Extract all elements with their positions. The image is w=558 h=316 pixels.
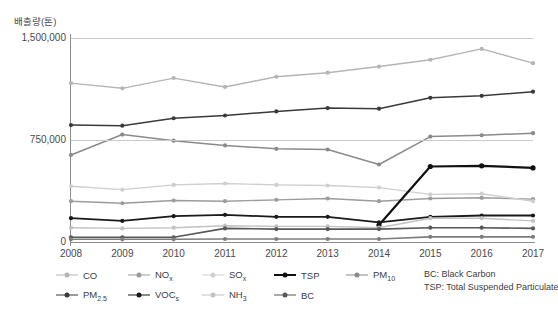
- gridline: [71, 38, 533, 39]
- data-point-CO: [274, 75, 278, 79]
- legend-item-PM2.5[interactable]: PM2.5: [56, 286, 107, 304]
- data-point-PM10: [326, 147, 330, 151]
- legend-swatch-icon: [274, 270, 296, 280]
- legend-item-NOx[interactable]: NOx: [128, 266, 173, 284]
- data-point-PM2.5: [377, 107, 381, 111]
- legend-item-BC[interactable]: BC: [274, 286, 314, 304]
- series-line-PM10: [71, 133, 533, 164]
- legend-label: SOx: [229, 269, 246, 282]
- data-point-PM2.5: [172, 116, 176, 120]
- data-point-NH3: [531, 219, 535, 223]
- legend-label: CO: [83, 270, 97, 281]
- x-tick-label: 2016: [459, 248, 505, 259]
- data-point-PM2.5: [120, 124, 124, 128]
- data-point-NOx: [326, 196, 330, 200]
- legend-swatch-icon: [128, 290, 150, 300]
- data-point-CO: [531, 61, 535, 65]
- data-point-TSP: [428, 164, 433, 169]
- data-point-SOx: [69, 184, 73, 188]
- data-point-PM2.5: [69, 123, 73, 127]
- data-point-VOCs: [326, 215, 330, 219]
- data-point-PM2.5: [326, 106, 330, 110]
- data-point-SOx: [480, 192, 484, 196]
- data-point-CO: [172, 76, 176, 80]
- data-point-NOx: [223, 199, 227, 203]
- legend: CONOxSOxTSPPM10 PM2.5VOCsNH3BC: [56, 266, 416, 310]
- data-point-VOCs: [377, 220, 381, 224]
- data-point-NH3: [120, 226, 124, 230]
- data-point-SOx: [531, 199, 535, 203]
- data-point-PM2.5: [531, 90, 535, 94]
- legend-swatch-icon: [56, 270, 78, 280]
- data-point-TSP: [530, 165, 535, 170]
- x-tick-label: 2010: [151, 248, 197, 259]
- data-point-BC-low: [428, 235, 432, 239]
- data-point-SOx: [326, 183, 330, 187]
- data-point-SOx: [377, 186, 381, 190]
- y-tick-label: 1,500,000: [22, 32, 67, 43]
- data-point-BC-low: [120, 237, 124, 241]
- legend-swatch-icon: [56, 290, 78, 300]
- legend-label: NOx: [155, 269, 173, 282]
- data-point-CO: [223, 85, 227, 89]
- data-point-NH3: [172, 226, 176, 230]
- legend-swatch-icon: [202, 290, 224, 300]
- legend-item-VOCs[interactable]: VOCs: [128, 286, 179, 304]
- legend-item-NH3[interactable]: NH3: [202, 286, 247, 304]
- gridline: [71, 140, 533, 141]
- data-point-CO: [377, 64, 381, 68]
- legend-swatch-icon: [128, 270, 150, 280]
- data-point-BC-low: [274, 237, 278, 241]
- data-point-PM10: [223, 143, 227, 147]
- data-point-VOCs: [172, 214, 176, 218]
- data-point-NOx: [172, 198, 176, 202]
- legend-item-SOx[interactable]: SOx: [202, 266, 246, 284]
- plot-area: [71, 38, 533, 242]
- legend-item-TSP[interactable]: TSP: [274, 266, 319, 284]
- data-point-NOx: [69, 199, 73, 203]
- y-axis-tick-group: 0750,0001,500,000: [0, 0, 66, 260]
- legend-item-PM10[interactable]: PM10: [346, 266, 395, 284]
- data-point-BC: [377, 227, 381, 231]
- legend-label: VOCs: [155, 289, 179, 302]
- data-point-PM10: [274, 147, 278, 151]
- data-point-BC: [274, 227, 278, 231]
- x-tick-label: 2013: [305, 248, 351, 259]
- data-point-PM2.5: [428, 96, 432, 100]
- x-tick-label: 2017: [510, 248, 556, 259]
- data-point-NH3: [428, 216, 432, 220]
- x-tick-label: 2009: [99, 248, 145, 259]
- data-point-PM10: [480, 133, 484, 137]
- data-point-VOCs: [69, 216, 73, 220]
- legend-swatch-icon: [274, 290, 296, 300]
- data-point-PM10: [377, 162, 381, 166]
- legend-item-CO[interactable]: CO: [56, 266, 97, 284]
- footnote-tsp: TSP: Total Suspended Particulate: [424, 281, 558, 294]
- series-line-NOx: [71, 198, 533, 203]
- legend-label: NH3: [229, 289, 247, 302]
- series-line-CO: [71, 49, 533, 88]
- data-point-PM10: [120, 132, 124, 136]
- legend-row-primary: CONOxSOxTSPPM10: [56, 266, 416, 284]
- data-point-NOx: [377, 199, 381, 203]
- data-point-BC-low: [531, 235, 535, 239]
- data-point-BC: [480, 226, 484, 230]
- data-point-PM10: [69, 153, 73, 157]
- data-point-BC-low: [326, 237, 330, 241]
- data-point-SOx: [172, 183, 176, 187]
- data-point-CO: [428, 58, 432, 62]
- data-point-NH3: [480, 216, 484, 220]
- legend-label: PM2.5: [83, 289, 107, 302]
- data-point-CO: [326, 71, 330, 75]
- data-point-CO: [120, 86, 124, 90]
- data-point-BC-low: [223, 237, 227, 241]
- x-tick-label: 2011: [202, 248, 248, 259]
- legend-label: TSP: [301, 270, 319, 281]
- y-tick-label: 750,000: [30, 134, 66, 145]
- data-point-TSP: [479, 163, 484, 168]
- data-point-CO: [480, 47, 484, 51]
- legend-label: PM10: [373, 269, 395, 282]
- legend-swatch-icon: [202, 270, 224, 280]
- data-point-PM2.5: [274, 109, 278, 113]
